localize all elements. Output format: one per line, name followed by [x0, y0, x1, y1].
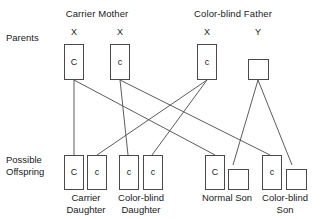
offspring-4-caption-line2: Son [245, 204, 325, 216]
offspring-2-caption-line2: Daughter [101, 204, 181, 216]
line-fatherc-to-colorblind-daughter [152, 80, 207, 155]
offspring-2-chromosome-1-box[interactable]: c [119, 155, 139, 190]
line-motherC-to-normal-son [74, 80, 215, 155]
offspring-2-chromosome-2-box[interactable]: c [143, 155, 163, 190]
mother-chromosome-1-box[interactable]: C [64, 44, 84, 80]
offspring-4-chromosome-2-box[interactable] [286, 169, 307, 190]
row-label-offspring-line2: Offspring [6, 166, 44, 178]
father-chromosome-2-symbol: Y [248, 27, 268, 37]
row-label-parents: Parents [6, 32, 39, 44]
line-motherc-to-colorblind-daughter [120, 80, 128, 155]
offspring-1-chromosome-1-allele: C [71, 168, 78, 177]
offspring-3-chromosome-1-box[interactable]: C [205, 155, 225, 190]
parent-label-father: Color-blind Father [183, 8, 283, 19]
mother-chromosome-2-box[interactable]: c [110, 44, 130, 80]
offspring-1-chromosome-2-box[interactable]: c [87, 155, 107, 190]
line-fatherY-to-normal-son [233, 80, 258, 165]
offspring-2-chromosome-1-allele: c [127, 168, 132, 177]
offspring-2-caption-line1: Color-blind [101, 192, 181, 204]
line-fatherc-to-carrier-daughter [97, 80, 207, 155]
mother-chromosome-2-symbol: X [110, 27, 130, 37]
mother-chromosome-1-symbol: X [64, 27, 84, 37]
inheritance-diagram: Parents Possible Offspring Carrier Mothe… [0, 0, 325, 219]
mother-chromosome-2-allele: c [118, 58, 123, 67]
offspring-4-chromosome-1-box[interactable]: c [262, 155, 282, 190]
mother-chromosome-1-allele: C [71, 58, 78, 67]
line-motherc-to-colorblind-son [120, 80, 270, 155]
row-label-offspring-line1: Possible [6, 154, 42, 166]
offspring-1-chromosome-2-allele: c [95, 168, 100, 177]
father-chromosome-2-box[interactable] [248, 59, 269, 80]
offspring-2-chromosome-2-allele: c [151, 168, 156, 177]
father-chromosome-1-allele: c [205, 58, 210, 67]
parent-label-mother: Carrier Mother [57, 8, 137, 19]
offspring-3-chromosome-2-box[interactable] [228, 169, 249, 190]
offspring-4-chromosome-1-allele: c [270, 168, 275, 177]
father-chromosome-1-box[interactable]: c [197, 44, 217, 80]
father-chromosome-1-symbol: X [197, 27, 217, 37]
line-fatherY-to-colorblind-son [258, 80, 292, 165]
offspring-4-caption-line1: Color-blind [245, 192, 325, 204]
offspring-3-chromosome-1-allele: C [212, 168, 219, 177]
offspring-1-chromosome-1-box[interactable]: C [64, 155, 84, 190]
